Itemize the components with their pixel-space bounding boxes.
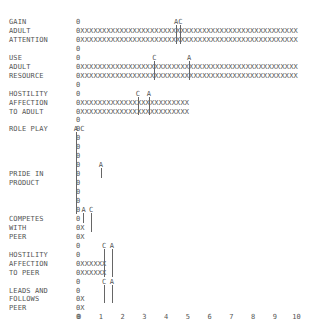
category-label: HOSTILITY [9, 251, 48, 259]
category-label: ADULT [9, 27, 31, 35]
x-tick-label: 9 [273, 313, 277, 321]
marker-line [101, 168, 102, 178]
category-label: AFFECTION [9, 99, 48, 107]
marker-line [91, 213, 92, 232]
category-label: TO ADULT [9, 108, 44, 116]
category-label: PEER [9, 233, 26, 241]
x-tick-label: 6 [207, 313, 211, 321]
ascii-bar-chart: GAINADULTATTENTIONUSEADULTRESOURCEHOSTIL… [0, 0, 319, 334]
category-label: WITH [9, 224, 26, 232]
x-tick-label: 8 [251, 313, 255, 321]
category-label: TO PEER [9, 269, 39, 277]
category-label: AFFECTION [9, 260, 48, 268]
x-tick-label: 3 [142, 313, 146, 321]
marker-line [112, 285, 113, 304]
x-tick-label: 4 [164, 313, 168, 321]
marker-line [138, 97, 139, 116]
category-label: FOLLOWS [9, 295, 39, 303]
marker-line [76, 132, 77, 214]
marker-line [104, 249, 105, 277]
marker-line [149, 97, 150, 116]
marker-line [176, 25, 177, 44]
category-label: PEER [9, 304, 26, 312]
x-tick-label: 1 [99, 313, 103, 321]
marker-line [154, 61, 155, 80]
x-tick-label: 7 [229, 313, 233, 321]
category-label: ATTENTION [9, 36, 48, 44]
category-label: PRODUCT [9, 179, 39, 187]
category-label: GAIN [9, 18, 26, 26]
x-tick-label: 2 [120, 313, 124, 321]
category-label: ROLE PLAY [9, 125, 48, 133]
marker-line [189, 61, 190, 80]
marker-line [112, 249, 113, 277]
category-label: HOSTILITY [9, 90, 48, 98]
category-label: PRIDE IN [9, 170, 44, 178]
category-label: USE [9, 54, 22, 62]
marker-line [83, 213, 84, 223]
x-tick-label: 10 [292, 313, 300, 321]
x-tick-label: 0 [77, 313, 81, 321]
x-tick-label: 5 [186, 313, 190, 321]
category-label: ADULT [9, 63, 31, 71]
marker-line [180, 25, 181, 44]
category-label: COMPETES [9, 215, 44, 223]
category-label: RESOURCE [9, 72, 44, 80]
category-label: LEADS AND [9, 287, 48, 295]
marker-c: C [80, 125, 84, 133]
marker-line [104, 285, 105, 304]
